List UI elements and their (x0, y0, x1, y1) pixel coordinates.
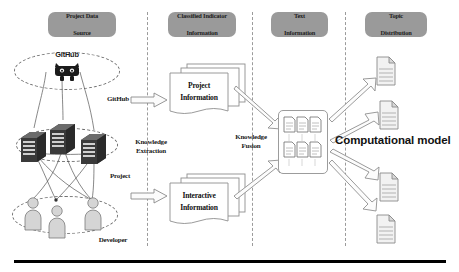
figure-canvas: Project Data Source Classified Indicator… (0, 0, 459, 272)
topic-document-2 (378, 100, 400, 130)
fusion-label-line-2: Fusion (241, 142, 260, 150)
fusion-label-line-1: Knowledge (235, 133, 267, 141)
topic-document-3 (378, 172, 400, 202)
knowledge-fusion-label: Knowledge Fusion (223, 133, 279, 151)
topic-document-4 (375, 214, 397, 244)
topic-document-1 (375, 56, 397, 86)
computational-model-label: Computational model (335, 136, 457, 145)
bottom-rule (14, 260, 446, 263)
fusion-icon-grid (278, 110, 326, 172)
